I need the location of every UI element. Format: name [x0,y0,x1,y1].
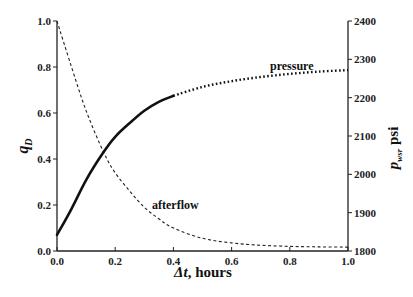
x-tick-label: 0.8 [283,255,297,267]
y-left-title-sub: D [23,138,34,146]
y-right-tick-label: 2200 [354,92,377,104]
y-right-tick-label: 2100 [354,130,377,142]
y-left-tick-label: 0.2 [37,199,51,211]
y-left-tick-label: 0.8 [37,61,51,73]
x-tick-label: 0.2 [108,255,122,267]
y-right-title-sub: wsr [394,148,404,162]
y-left-title-main: q [14,146,32,154]
y-right-tick-label: 1900 [354,207,377,219]
y-left-tick-label: 0.6 [37,107,51,119]
y-right-tick-label: 2000 [354,168,377,180]
ticks: 0.00.20.40.60.81.00.00.20.40.60.81.01800… [37,15,376,267]
y-right-title-main: p [385,161,401,171]
pressure-curve-solid [57,96,173,235]
x-axis-title: Δt, hours [173,264,232,280]
y-left-tick-label: 1.0 [37,15,51,27]
y-right-tick-label: 1800 [354,245,377,257]
pressure-curve-dotted [173,70,348,96]
y-axis-left-title: qD [14,138,34,153]
annotation-pressure: pressure [270,59,314,73]
y-left-tick-label: 0.0 [37,245,51,257]
series [57,21,348,247]
y-right-tick-label: 2400 [354,15,377,27]
x-tick-label: 0.0 [50,255,64,267]
x-axis-title-unit: , hours [188,264,232,280]
y-right-title-unit: psi [385,127,401,149]
afterflow-curve [57,21,348,247]
y-right-tick-label: 2300 [354,53,377,65]
x-axis-title-symbol: Δt [173,264,188,280]
axes [57,21,348,251]
y-axis-right-title: pwsr psi [385,127,404,172]
annotation-afterflow: afterflow [152,198,199,212]
chart: 0.00.20.40.60.81.00.00.20.40.60.81.01800… [0,0,413,297]
y-left-tick-label: 0.4 [37,153,51,165]
